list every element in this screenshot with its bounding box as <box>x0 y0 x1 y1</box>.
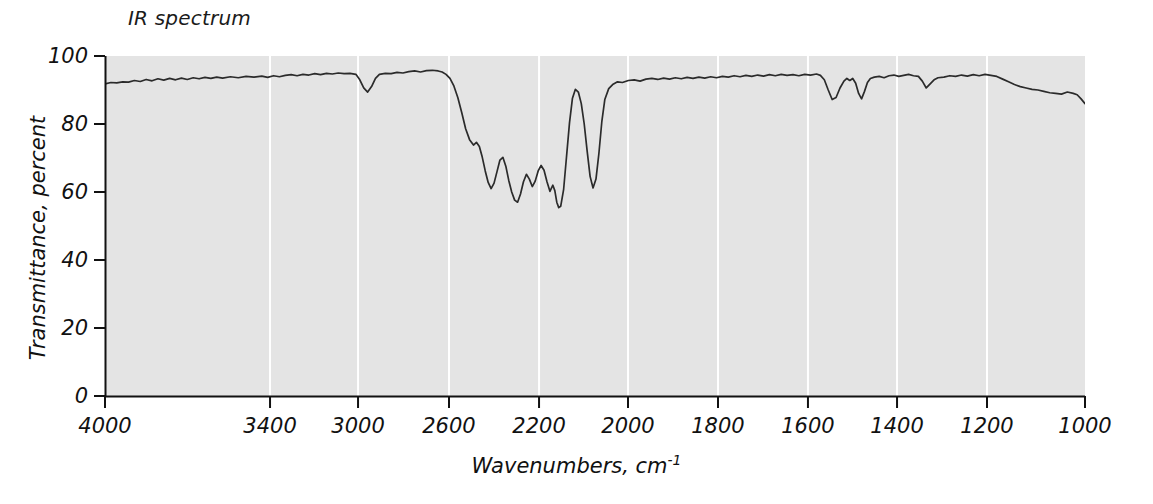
gridlines <box>270 56 987 396</box>
y-axis-label: Transmittance, percent <box>26 78 50 398</box>
spectrum-trace <box>105 70 1085 207</box>
x-axis-label-superscript: -1 <box>668 452 682 468</box>
x-axis-label: Wavenumbers, cm-1 <box>0 452 1153 478</box>
x-tick-label: 4000 <box>50 414 160 438</box>
x-tick-marks <box>105 396 1085 408</box>
ir-spectrum-figure: IR spectrum 020406080100 400034003000260… <box>0 0 1153 504</box>
chart-title: IR spectrum <box>128 6 251 30</box>
x-axis-label-text: Wavenumbers, cm <box>471 454 667 478</box>
x-tick-label: 1000 <box>1030 414 1140 438</box>
y-tick-marks <box>94 56 105 396</box>
y-tick-label: 100 <box>16 44 88 68</box>
plot-area <box>105 56 1085 396</box>
spectrum-plot-svg <box>105 56 1085 396</box>
x-tick-label: 1200 <box>932 414 1042 438</box>
